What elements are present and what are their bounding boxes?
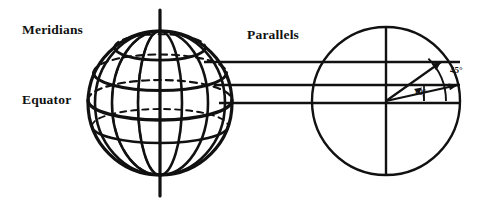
label-parallels: Parallels xyxy=(247,28,299,42)
angle-label-10-degrees: 10° xyxy=(414,88,427,97)
cross-section-group xyxy=(312,27,460,175)
globe-group xyxy=(88,10,232,196)
globe-meridian-hidden-1 xyxy=(138,31,160,175)
label-meridians: Meridians xyxy=(22,23,83,37)
diagram-canvas: Meridians Equator Parallels 45° 10° xyxy=(0,0,480,206)
angle-label-45-degrees: 45° xyxy=(450,66,463,75)
label-equator: Equator xyxy=(22,93,71,107)
